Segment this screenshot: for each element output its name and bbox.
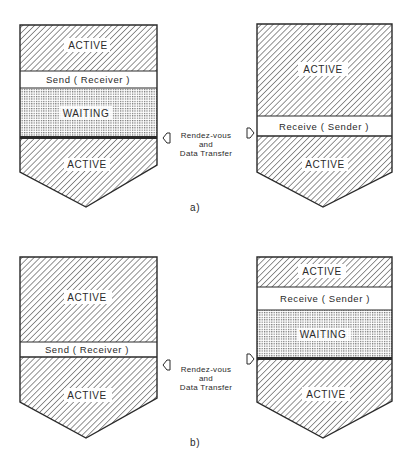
rendezvous-note-b: Rendez-vous and Data Transfer (180, 365, 232, 392)
label-active: ACTIVE (67, 159, 107, 170)
svg-text:Data Transfer: Data Transfer (180, 149, 232, 158)
svg-text:Rendez-vous: Rendez-vous (181, 365, 231, 374)
svg-text:Data Transfer: Data Transfer (180, 383, 232, 392)
label-waiting: WAITING (300, 329, 347, 340)
label-active: ACTIVE (67, 292, 107, 303)
label-active: ACTIVE (305, 159, 345, 170)
rendezvous-diagram: ACTIVE Send ( Receiver ) WAITING ACTIVE … (0, 0, 417, 467)
caption-a: a) (190, 202, 200, 213)
divider (20, 136, 157, 139)
divider (257, 357, 392, 360)
sync-marker-icon (247, 354, 254, 364)
label-receive-call: Receive ( Sender ) (279, 121, 369, 132)
label-send-call: Send ( Receiver ) (45, 344, 129, 355)
sync-marker-icon (163, 133, 170, 143)
sender-process-a: ACTIVE Send ( Receiver ) WAITING ACTIVE (20, 25, 157, 207)
label-receive-call: Receive ( Sender ) (280, 293, 370, 304)
label-active: ACTIVE (306, 389, 346, 400)
active-block-arrowhead (20, 139, 157, 207)
svg-text:Rendez-vous: Rendez-vous (181, 131, 231, 140)
sync-marker-icon (163, 360, 170, 370)
sender-process-b: ACTIVE Send ( Receiver ) ACTIVE (20, 257, 157, 438)
rendezvous-note-a: Rendez-vous and Data Transfer (180, 131, 232, 158)
active-block-arrowhead (257, 136, 392, 207)
receiver-process-b: ACTIVE Receive ( Sender ) WAITING ACTIVE (257, 257, 392, 438)
label-active: ACTIVE (67, 390, 107, 401)
panel-a: ACTIVE Send ( Receiver ) WAITING ACTIVE … (20, 24, 392, 213)
svg-text:and: and (199, 374, 213, 383)
label-waiting: WAITING (63, 108, 110, 119)
receiver-process-a: ACTIVE Receive ( Sender ) ACTIVE (257, 24, 392, 207)
label-send-call: Send ( Receiver ) (46, 74, 130, 85)
label-active: ACTIVE (68, 40, 108, 51)
sync-marker-icon (247, 128, 254, 138)
caption-b: b) (190, 437, 200, 448)
label-active: ACTIVE (302, 266, 342, 277)
label-active: ACTIVE (303, 64, 343, 75)
panel-b: ACTIVE Send ( Receiver ) ACTIVE Rendez-v… (20, 257, 392, 448)
svg-text:and: and (199, 140, 213, 149)
